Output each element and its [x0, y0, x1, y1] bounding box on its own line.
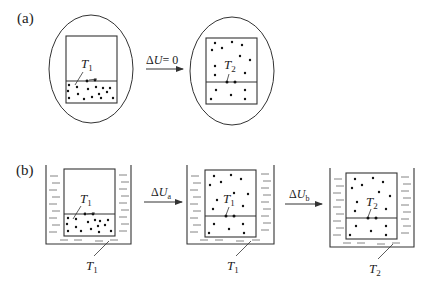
delta-ub-label: ΔUb: [289, 187, 309, 203]
panel-a-label: (a): [17, 10, 34, 27]
process-arrow-ua: ΔUa: [144, 185, 182, 202]
gas-molecules-compressed: [67, 79, 114, 101]
bath-temp-label-stage-3: T2: [369, 261, 381, 278]
heat-bath-stage-3: T2 T2: [330, 168, 414, 278]
temp-label-before: T1: [81, 56, 93, 73]
temp-label-after: T2: [224, 57, 236, 74]
panel-b-label: (b): [16, 162, 34, 179]
heat-bath-stage-2: T1 T1: [187, 165, 274, 275]
bath-temp-label-stage-2: T1: [227, 258, 239, 275]
process-arrow-a: ΔU= 0: [146, 53, 183, 69]
delta-u-zero-label: ΔU= 0: [146, 53, 178, 67]
isolated-system-before: T1: [49, 15, 133, 123]
delta-ua-label: ΔUa: [151, 185, 171, 201]
thermodynamics-diagram: (a) T1 ΔU= 0: [0, 0, 426, 289]
process-arrow-ub: ΔUb: [285, 187, 322, 204]
isolated-system-after: T2: [190, 17, 274, 125]
bath-temp-label-stage-1: T1: [86, 258, 98, 275]
heat-bath-stage-1: T1 T1: [46, 165, 131, 275]
